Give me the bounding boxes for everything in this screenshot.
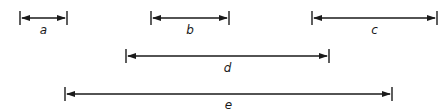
segment-c-label: c [371,24,378,36]
right-arrowhead-icon [427,15,436,21]
segment-d-label: d [224,62,232,74]
segment-b-label: b [186,24,194,36]
left-arrowhead-icon [66,91,75,97]
left-arrowhead-icon [313,15,322,21]
left-arrowhead-icon [21,15,30,21]
right-arrowhead-icon [219,15,228,21]
diagram-canvas [0,0,445,112]
left-arrowhead-icon [152,15,161,21]
right-arrowhead-icon [319,53,328,59]
right-arrowhead-icon [382,91,391,97]
segment-a-label: a [40,24,47,36]
left-arrowhead-icon [127,53,136,59]
right-arrowhead-icon [57,15,66,21]
segment-e-label: e [225,99,232,111]
